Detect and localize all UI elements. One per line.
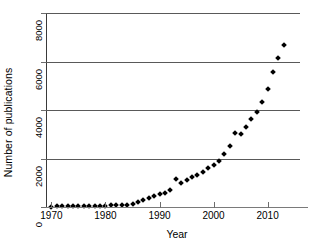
data-point [238,131,244,137]
data-point [194,172,200,178]
plot-area [46,13,300,207]
x-tick-mark-1980 [105,202,106,208]
data-point [162,191,168,197]
x-tick-mark-2010 [268,202,269,208]
chart-figure: Number of publications 02000400060008000… [0,0,315,245]
x-tick-label-2000: 2000 [202,210,224,221]
data-point [259,99,265,105]
y-tick-label-4000: 4000 [33,109,44,147]
x-tick-mark-1990 [160,202,161,208]
data-point [184,177,190,183]
x-axis-title: Year [46,228,308,240]
y-axis-title: Number of publications [0,0,16,245]
data-point [281,42,287,48]
x-tick-mark-2000 [214,202,215,208]
data-point [243,124,249,130]
data-point [254,110,260,116]
data-point [227,144,233,150]
data-point [249,116,255,122]
data-point [178,180,184,186]
x-tick-mark-1970 [51,202,52,208]
data-point [151,193,157,199]
y-tick-label-2000: 2000 [33,157,44,195]
data-point [221,151,227,157]
y-tick-label-8000: 8000 [33,12,44,50]
data-point [265,86,271,92]
x-tick-label-2010: 2010 [256,210,278,221]
gridline-2000 [46,159,300,160]
gridline-6000 [46,62,300,63]
gridline-8000 [46,13,300,14]
data-point [205,165,211,171]
data-point [200,169,206,175]
data-point [270,69,276,75]
data-point [173,176,179,182]
x-tick-label-1980: 1980 [94,210,116,221]
x-tick-label-1970: 1970 [40,210,62,221]
data-point [232,130,238,136]
x-tick-label-1990: 1990 [148,210,170,221]
data-point [167,187,173,193]
y-tick-label-6000: 6000 [33,60,44,98]
x-axis-line [46,207,308,208]
gridline-4000 [46,110,300,111]
data-point [211,162,217,168]
data-point [276,55,282,61]
